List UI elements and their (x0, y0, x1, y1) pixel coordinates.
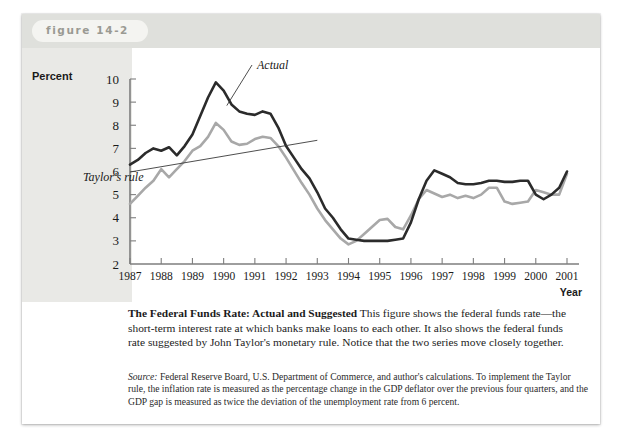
chart-svg: 1098765432 19871988198919901991199219931… (22, 48, 600, 302)
x-tick-label: 1999 (493, 270, 516, 282)
series-line-taylors-rule (130, 123, 567, 244)
x-tick-label: 1989 (181, 270, 204, 282)
figure-number-label: figure 14-2 (46, 24, 129, 36)
x-tick-label: 1998 (462, 270, 485, 282)
x-axis-title: Year (560, 286, 582, 298)
x-tick-mark-group (130, 258, 567, 264)
x-tick-label: 2000 (524, 270, 547, 282)
caption-paragraph: The Federal Funds Rate: Actual and Sugge… (128, 306, 580, 350)
x-tick-label: 2001 (556, 270, 579, 282)
chart-plot-area: Percent 1098765432 198719881989199019911… (22, 48, 600, 302)
y-tick-label: 5 (113, 187, 120, 202)
x-tick-label: 1993 (306, 270, 329, 282)
y-tick-mark-group (130, 79, 136, 241)
y-tick-label: 9 (113, 95, 120, 110)
y-tick-label: 8 (113, 118, 120, 133)
y-tick-label: 3 (113, 233, 120, 248)
figure-header-band: figure 14-2 (22, 14, 600, 48)
caption-title: The Federal Funds Rate: Actual and Sugge… (128, 307, 357, 319)
x-tick-label-group: 1987198819891990199119921993199419951996… (119, 270, 579, 282)
actual-leader-line (227, 65, 252, 106)
source-body: Federal Reserve Board, U.S. Department o… (128, 371, 588, 407)
x-tick-label: 1988 (150, 270, 173, 282)
x-tick-label: 1992 (275, 270, 298, 282)
source-paragraph: Source: Federal Reserve Board, U.S. Depa… (128, 371, 590, 408)
x-tick-label: 1990 (212, 270, 235, 282)
y-tick-label: 7 (113, 141, 120, 156)
caption-block: The Federal Funds Rate: Actual and Sugge… (128, 306, 580, 350)
source-block: Source: Federal Reserve Board, U.S. Depa… (128, 371, 590, 408)
taylors-rule-leader-line (130, 140, 317, 172)
y-tick-label: 4 (113, 210, 120, 225)
x-tick-label: 1991 (243, 270, 266, 282)
y-tick-label: 10 (106, 72, 119, 87)
x-tick-label: 1995 (368, 270, 391, 282)
x-tick-label: 1997 (431, 270, 454, 282)
x-tick-label: 1987 (119, 270, 142, 282)
taylors-rule-series-label: Taylor's rule (83, 170, 144, 184)
x-tick-label: 1996 (399, 270, 422, 282)
series-line-actual (130, 82, 567, 240)
x-tick-label: 1994 (337, 270, 360, 282)
actual-series-label: Actual (256, 58, 289, 72)
figure-card: figure 14-2 Percent 1098765432 198719881… (22, 14, 600, 424)
source-keyword: Source: (128, 371, 157, 382)
